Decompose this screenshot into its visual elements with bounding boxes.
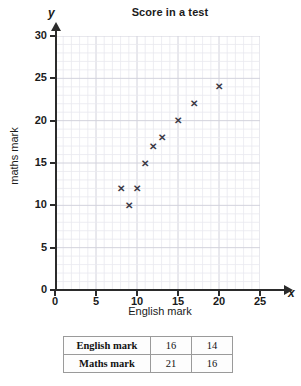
data-point: ✕ bbox=[133, 184, 142, 193]
y-axis-line bbox=[55, 30, 57, 291]
y-tick-mark bbox=[50, 204, 55, 206]
x-tick-label: 20 bbox=[206, 295, 232, 307]
chart-title: Score in a test bbox=[80, 6, 260, 18]
x-tick-label: 25 bbox=[247, 295, 273, 307]
y-tick-label: 5 bbox=[21, 241, 47, 253]
y-tick-mark bbox=[50, 247, 55, 249]
data-point: ✕ bbox=[116, 184, 125, 193]
y-tick-label: 25 bbox=[21, 71, 47, 83]
plot-area: ✕✕✕✕✕✕✕✕✕ bbox=[55, 36, 260, 290]
y-tick-mark bbox=[50, 77, 55, 79]
table-row-header: Maths mark bbox=[64, 355, 151, 373]
y-tick-mark bbox=[50, 120, 55, 122]
data-point: ✕ bbox=[124, 201, 133, 210]
x-axis-arrow-icon bbox=[284, 285, 293, 295]
x-tick-label: 15 bbox=[165, 295, 191, 307]
plot-gridlines bbox=[55, 36, 260, 290]
table-cell: 16 bbox=[150, 337, 191, 355]
data-point: ✕ bbox=[215, 82, 224, 91]
table-cell: 14 bbox=[191, 337, 232, 355]
y-tick-mark bbox=[50, 162, 55, 164]
y-tick-label: 0 bbox=[21, 283, 47, 295]
data-table: English mark1614Maths mark2116 bbox=[63, 336, 233, 373]
y-axis-label: maths mark bbox=[8, 96, 20, 216]
table-row: English mark1614 bbox=[64, 337, 233, 355]
table-cell: 21 bbox=[150, 355, 191, 373]
y-tick-label: 10 bbox=[21, 198, 47, 210]
x-tick-label: 0 bbox=[42, 295, 68, 307]
data-point: ✕ bbox=[141, 159, 150, 168]
x-tick-label: 5 bbox=[83, 295, 109, 307]
x-axis-label: English mark bbox=[100, 305, 220, 317]
table-row: Maths mark2116 bbox=[64, 355, 233, 373]
y-axis-arrow-icon bbox=[51, 22, 61, 31]
x-axis-line bbox=[55, 289, 286, 291]
marks-table: English mark1614Maths mark2116 bbox=[63, 336, 233, 373]
y-tick-label: 15 bbox=[21, 156, 47, 168]
y-tick-label: 20 bbox=[21, 114, 47, 126]
y-tick-label: 30 bbox=[21, 29, 47, 41]
table-cell: 16 bbox=[191, 355, 232, 373]
data-point: ✕ bbox=[190, 99, 199, 108]
data-point: ✕ bbox=[157, 133, 166, 142]
data-point: ✕ bbox=[174, 116, 183, 125]
scatter-plot-figure: Score in a test y x maths mark English m… bbox=[0, 0, 301, 325]
table-row-header: English mark bbox=[64, 337, 151, 355]
data-point: ✕ bbox=[149, 142, 158, 151]
y-axis-symbol: y bbox=[48, 6, 55, 20]
x-tick-label: 10 bbox=[124, 295, 150, 307]
y-tick-mark bbox=[50, 35, 55, 37]
